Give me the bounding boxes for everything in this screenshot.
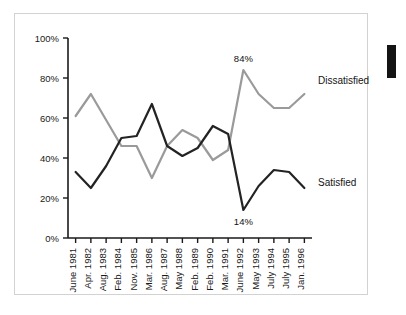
series-line-dissatisfied (76, 70, 305, 178)
x-axis-tick-label: Feb. 1984 (112, 248, 123, 291)
x-axis-tick-label: July 1994 (265, 248, 276, 289)
y-axis-tick-label: 40% (40, 153, 60, 164)
x-axis-tick-label: Feb. 1989 (189, 248, 200, 291)
data-annotations: 84% 14% (234, 53, 254, 227)
x-axis-tick-label: Mar. 1986 (143, 248, 154, 290)
y-axis-tick-label: 0% (45, 233, 59, 244)
data-series-lines (76, 70, 305, 210)
series-label-dissatisfied: Dissatisfied (318, 75, 369, 86)
x-axis-tick-label: Aug. 1987 (158, 248, 169, 291)
y-axis-tick-label: 20% (40, 193, 60, 204)
x-axis-tick-label: Feb. 1990 (204, 248, 215, 291)
y-axis-tick-label: 60% (40, 113, 60, 124)
y-axis-tick-label: 80% (40, 73, 60, 84)
x-axis-tick-label: Jan. 1996 (295, 248, 306, 290)
chart-figure: 0%20%40%60%80%100% June 1981Apr. 1982Aug… (0, 0, 406, 315)
y-axis (63, 38, 68, 238)
x-axis-tick-label: Apr. 1982 (82, 248, 93, 289)
line-chart: 0%20%40%60%80%100% June 1981Apr. 1982Aug… (0, 0, 406, 315)
x-axis-tick-label: July 1995 (280, 248, 291, 289)
annotation-peak-value: 84% (234, 53, 254, 64)
x-axis (68, 238, 312, 243)
series-label-satisfied: Satisfied (318, 177, 356, 188)
series-line-satisfied (76, 104, 305, 210)
x-axis-tick-label: Mar. 1991 (219, 248, 230, 290)
x-axis-tick-label: June 1992 (234, 248, 245, 292)
x-axis-tick-label: May 1993 (250, 248, 261, 290)
annotation-trough-value: 14% (234, 216, 254, 227)
series-inline-labels: Dissatisfied Satisfied (318, 75, 369, 188)
x-axis-tick-label: June 1981 (67, 248, 78, 292)
x-axis-tick-label: Nov. 1985 (128, 248, 139, 291)
x-axis-tick-label: Aug. 1983 (97, 248, 108, 291)
y-axis-tick-labels: 0%20%40%60%80%100% (35, 33, 60, 244)
y-axis-tick-label: 100% (35, 33, 60, 44)
x-axis-tick-labels: June 1981Apr. 1982Aug. 1983Feb. 1984Nov.… (67, 248, 307, 292)
x-axis-tick-label: May 1988 (173, 248, 184, 290)
